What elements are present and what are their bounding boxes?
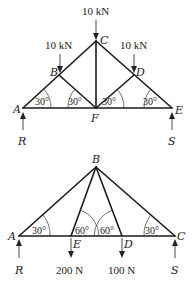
reaction-label-R: R <box>14 264 23 277</box>
load-label-E: 200 N <box>56 264 83 276</box>
angle-label: 30° <box>102 96 116 107</box>
node-label-D: D <box>135 66 145 79</box>
load-label-D: 10 kN <box>120 39 147 51</box>
node-label-E: E <box>174 104 183 117</box>
node-label-F: F <box>90 112 99 125</box>
angle-label: 60° <box>100 225 114 236</box>
angle-label: 30° <box>32 225 46 236</box>
truss-2: 30° 60° 60° 30° A B C D E 200 N 100 N R <box>7 153 186 277</box>
angle-label: 30° <box>143 96 157 107</box>
truss-1: 30° 30° 30° 30° A B C D E F 10 kN 10 kN … <box>12 5 183 148</box>
reaction-label-S: S <box>168 135 176 148</box>
load-label-D: 100 N <box>108 264 135 276</box>
reaction-arrow-R <box>16 239 22 258</box>
angle-label: 30° <box>68 96 82 107</box>
truss-figure: 30° 30° 30° 30° A B C D E F 10 kN 10 kN … <box>0 0 193 289</box>
angle-arc-F-right <box>117 89 124 108</box>
load-arrow-C <box>93 20 99 40</box>
angle-label: 60° <box>75 225 89 236</box>
reaction-label-S: S <box>171 264 179 277</box>
angle-label: 30° <box>145 225 159 236</box>
node-label-D: D <box>123 238 133 251</box>
load-label-C: 10 kN <box>82 5 109 17</box>
node-label-C: C <box>177 230 186 243</box>
node-label-E: E <box>72 238 81 251</box>
load-label-B: 10 kN <box>45 39 72 51</box>
node-label-A: A <box>12 103 21 116</box>
node-label-A: A <box>7 230 16 243</box>
angle-label: 30° <box>35 96 49 107</box>
truss-diagrams: 30° 30° 30° 30° A B C D E F 10 kN 10 kN … <box>0 0 193 289</box>
reaction-label-R: R <box>17 135 26 148</box>
node-label-B: B <box>91 153 100 166</box>
node-label-C: C <box>100 34 109 47</box>
node-label-B: B <box>49 66 58 79</box>
